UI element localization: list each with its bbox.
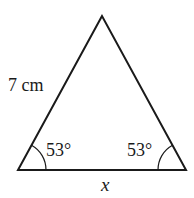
side-length-label: 7 cm — [8, 75, 44, 95]
left-angle-label: 53° — [46, 140, 71, 160]
left-angle-arc — [32, 145, 47, 170]
base-label: x — [100, 174, 110, 195]
right-angle-label: 53° — [127, 140, 152, 160]
right-angle-arc — [158, 145, 173, 170]
triangle-diagram: 7 cm 53° 53° x — [0, 0, 194, 198]
